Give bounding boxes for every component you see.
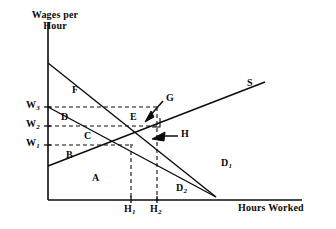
diagram-canvas (0, 0, 336, 229)
y-tick-label-w3: W3 (26, 100, 40, 111)
y-axis-title-line2: Hour (16, 21, 94, 32)
y-tick-label-w1: W1 (26, 138, 40, 149)
w1-text: W (26, 137, 36, 148)
w2-subscript: 2 (36, 123, 40, 131)
h2-text: H (150, 203, 158, 214)
region-label-a: A (92, 173, 99, 184)
region-label-c: C (84, 131, 91, 142)
w2-text: W (26, 118, 36, 129)
annotation-arrow-h (152, 132, 178, 141)
x-tick-label-h1: H1 (124, 204, 136, 215)
annotation-label-h: H (181, 129, 189, 140)
x-axis-title: Hours Worked (238, 203, 304, 214)
wage-supply-demand-diagram: Wages per Hour Hours Worked W3 W2 W1 H1 … (0, 0, 336, 229)
d1-subscript: 1 (228, 162, 232, 170)
y-axis-title-line1: Wages per (16, 10, 94, 21)
region-label-b: B (66, 150, 73, 161)
curve-label-s: S (247, 78, 253, 89)
y-axis-title: Wages per Hour (16, 10, 94, 31)
curve-label-d2: D2 (176, 183, 187, 194)
x-tick-label-h2: H2 (150, 204, 162, 215)
h2-subscript: 2 (158, 208, 162, 216)
h1-subscript: 1 (132, 208, 136, 216)
annotation-label-g: G (166, 93, 174, 104)
region-label-e: E (130, 112, 137, 123)
y-tick-label-w2: W2 (26, 119, 40, 130)
axes (48, 22, 302, 200)
w3-subscript: 3 (36, 104, 40, 112)
region-label-d: D (61, 112, 68, 123)
h1-text: H (124, 203, 132, 214)
curve-label-d1: D1 (221, 158, 232, 169)
w3-text: W (26, 99, 36, 110)
d2-subscript: 2 (183, 187, 187, 195)
w1-subscript: 1 (36, 142, 40, 150)
region-label-f: F (72, 85, 78, 96)
